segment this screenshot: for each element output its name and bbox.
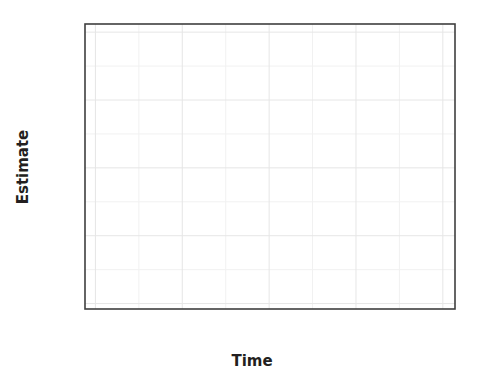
survival-curve-figure: Time Estimate [0, 0, 494, 379]
y-axis-title: Estimate [14, 130, 32, 205]
x-axis-title: Time [231, 352, 272, 370]
chart-canvas: Time Estimate [0, 0, 494, 379]
